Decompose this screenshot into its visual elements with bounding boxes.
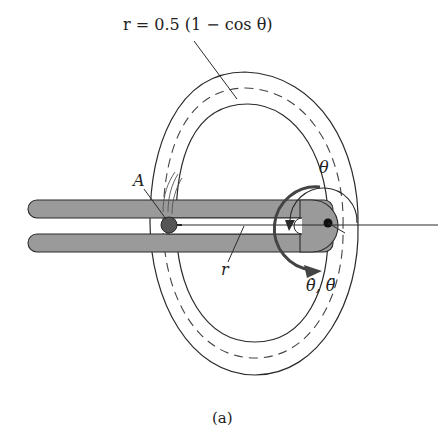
slider-pin-a [161,217,177,233]
arm-slot [170,218,302,234]
radius-label: r [221,260,230,279]
arm-lower-bar [28,234,333,252]
leader-equation [194,41,237,99]
diagram-canvas: r = 0.5 (1 − cos θ) A θ r θ̇, θ̈ (a) [0,0,448,432]
angular-rates-label: θ̇, θ̈ [306,276,336,295]
point-a-label: A [131,171,145,190]
figure-caption: (a) [212,409,233,427]
equation-label: r = 0.5 (1 − cos θ) [123,15,273,34]
arm-upper-bar [28,200,333,218]
theta-label: θ [319,158,329,177]
